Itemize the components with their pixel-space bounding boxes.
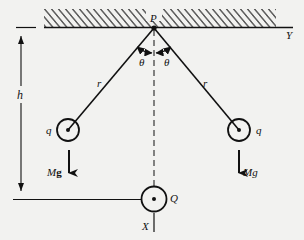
- label-h: h: [17, 88, 23, 102]
- label-q-left: q: [46, 124, 52, 136]
- string-right: [154, 28, 239, 130]
- label-theta-left: θ: [139, 56, 145, 68]
- pendulum-diagram: P Y θ θ r r h q q Mg Mg Q X: [0, 0, 304, 240]
- label-r-right: r: [203, 77, 208, 89]
- label-pivot-p: P: [149, 12, 157, 24]
- label-theta-right: θ: [164, 56, 170, 68]
- label-mg-right: Mg: [242, 166, 258, 178]
- bob-right: [228, 119, 250, 141]
- label-q-right: q: [256, 124, 262, 136]
- label-x-axis: X: [141, 220, 150, 232]
- pivot-point: [151, 25, 156, 30]
- string-left: [68, 28, 154, 130]
- label-q-bottom: Q: [170, 192, 178, 204]
- height-dimension: [13, 28, 141, 200]
- bob-left: [57, 119, 79, 141]
- label-y-axis: Y: [286, 29, 294, 41]
- label-r-left: r: [97, 77, 102, 89]
- ceiling-support: [44, 9, 293, 28]
- label-mg-left: Mg: [46, 166, 62, 178]
- charge-q-bottom: [142, 187, 167, 212]
